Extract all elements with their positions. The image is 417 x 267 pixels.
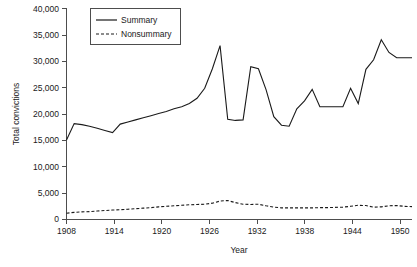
x-tick-label: 1914 xyxy=(105,226,124,236)
x-tick-label: 1908 xyxy=(57,226,76,236)
y-tick-label: 35,000 xyxy=(33,30,59,40)
x-tick-label: 1920 xyxy=(152,226,171,236)
y-tick-label: 10,000 xyxy=(33,162,59,172)
y-tick-label: 30,000 xyxy=(33,56,59,66)
y-tick-label: 40,000 xyxy=(33,4,59,14)
y-tick-label: 15,000 xyxy=(33,135,59,145)
legend-label-nonsummary: Nonsummary xyxy=(121,29,172,39)
x-tick-label: 1938 xyxy=(295,226,314,236)
x-tick-label: 1944 xyxy=(343,226,362,236)
legend-label-summary: Summary xyxy=(121,15,158,25)
y-tick-label: 25,000 xyxy=(33,83,59,93)
y-tick-label: 20,000 xyxy=(33,109,59,119)
x-tick-label: 1932 xyxy=(248,226,267,236)
y-tick-label: 5,000 xyxy=(38,188,60,198)
chart-legend: Summary Nonsummary xyxy=(91,9,181,45)
y-tick-label: 0 xyxy=(54,214,59,224)
x-tick-label: 1926 xyxy=(200,226,219,236)
y-axis-tick-labels: 0 5,000 10,000 15,000 20,000 25,000 30,0… xyxy=(33,4,59,225)
y-axis-title: Total convictions xyxy=(11,83,21,145)
line-chart-figure: 0 5,000 10,000 15,000 20,000 25,000 30,0… xyxy=(0,0,417,267)
x-axis-title: Year xyxy=(230,245,247,255)
x-tick-label: 1950 xyxy=(391,226,410,236)
